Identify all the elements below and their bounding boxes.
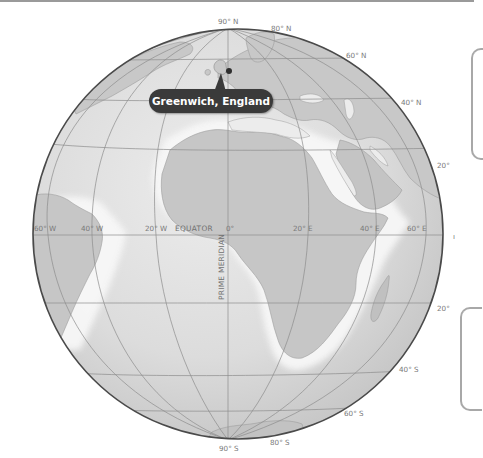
label-20n: 20° [437, 161, 450, 170]
label-20e: 20° E [293, 224, 313, 233]
label-60n: 60° N [346, 51, 366, 60]
label-prime-meridian: PRIME MERIDIAN [217, 234, 226, 300]
label-0: 0° [226, 224, 234, 233]
side-panel-upper [471, 48, 483, 160]
label-60e: 60° E [407, 224, 427, 233]
label-80s: 80° S [270, 438, 290, 447]
label-40e: 40° E [360, 224, 380, 233]
label-40w: 40° W [81, 224, 103, 233]
side-panel-lower [460, 307, 482, 411]
label-40s: 40° S [399, 365, 419, 374]
label-80n: 80° N [271, 24, 291, 33]
edge-tick: ı [453, 232, 455, 241]
label-90s: 90° S [219, 444, 239, 453]
label-40n: 40° N [401, 98, 421, 107]
label-equator: EQUATOR [175, 224, 213, 233]
label-20s: 20° [437, 304, 450, 313]
label-90n: 90° N [218, 17, 238, 26]
greenwich-marker [226, 68, 232, 74]
label-60w: 60° W [34, 224, 56, 233]
greenwich-callout: Greenwich, England [149, 89, 273, 113]
label-20w: 20° W [145, 224, 167, 233]
label-60s: 60° S [344, 409, 364, 418]
